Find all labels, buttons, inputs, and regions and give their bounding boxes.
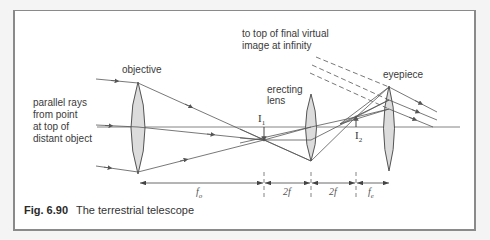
dimension-fo-label: fo [196,186,202,200]
image-i1-label: I1 [258,112,265,127]
dimension-2f-erect-right: 2f [329,186,337,197]
virtual-rays-dashed [310,57,389,109]
final-image-label-line1: to top of final virtual [242,28,329,40]
parallel-rays-label-line1: parallel rays [33,97,87,109]
figure-caption: Fig. 6.90The terrestrial telescope [24,204,194,216]
figure-title: The terrestrial telescope [76,204,194,216]
image-i2-label: I2 [355,129,362,144]
objective-label: objective [122,64,161,76]
eyepiece-lens [384,86,395,171]
parallel-rays-label-line3: at top of [33,121,69,133]
objective-rays [138,83,264,172]
exit-rays [389,87,437,127]
eyepiece-label: eyepiece [383,69,423,81]
parallel-rays-label-line2: from point [33,109,77,121]
dimension-guides [264,172,356,198]
figure-number: Fig. 6.90 [24,204,68,216]
final-image-label-line2: image at infinity [242,40,311,52]
dimension-fe-label: fe [368,186,374,200]
dimension-2f-erect-left: 2f [283,186,291,197]
erecting-rays [311,87,389,161]
intermediate-rays [240,127,311,161]
objective-lens [131,82,145,174]
parallel-rays-label-line4: distant object [33,133,92,145]
erecting-lens-label-line2: lens [267,95,285,107]
